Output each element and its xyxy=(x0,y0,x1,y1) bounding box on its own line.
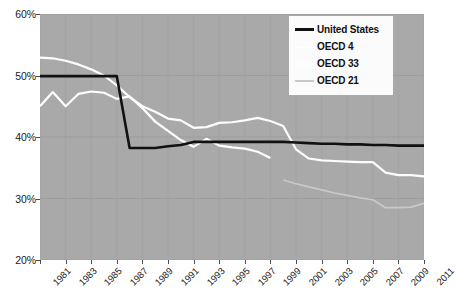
legend-item-oecd-33[interactable]: OECD 33 xyxy=(295,55,387,72)
legend-item-united-states[interactable]: United States xyxy=(295,21,387,38)
x-tick-label: 1981 xyxy=(51,266,72,287)
legend-swatch-oecd-33 xyxy=(295,63,314,65)
x-tick-mark xyxy=(117,260,118,264)
legend-item-oecd-4[interactable]: OECD 4 xyxy=(295,38,387,55)
x-tick-mark xyxy=(219,260,220,264)
x-tick-mark xyxy=(398,260,399,264)
y-tick-label: 50% xyxy=(0,71,36,82)
legend-swatch-oecd-21 xyxy=(295,80,314,82)
x-tick-mark xyxy=(142,260,143,264)
chart-legend: United States OECD 4 OECD 33 OECD 21 xyxy=(289,16,393,95)
x-tick-mark xyxy=(194,260,195,264)
legend-swatch-oecd-4 xyxy=(295,46,314,48)
y-axis: 60%50%40%30%20% xyxy=(0,0,36,296)
x-tick-label: 1991 xyxy=(179,266,200,287)
x-tick-label: 1993 xyxy=(205,266,226,287)
y-tick-label: 40% xyxy=(0,132,36,143)
x-tick-label: 1983 xyxy=(77,266,98,287)
x-tick-label: 2003 xyxy=(333,266,354,287)
legend-item-oecd-21[interactable]: OECD 21 xyxy=(295,72,387,89)
x-tick-mark xyxy=(347,260,348,264)
x-tick-mark xyxy=(66,260,67,264)
x-tick-mark xyxy=(91,260,92,264)
x-tick-mark xyxy=(40,260,41,264)
legend-label-oecd-4: OECD 4 xyxy=(317,42,353,52)
x-tick-label: 1989 xyxy=(153,266,174,287)
x-tick-mark xyxy=(373,260,374,264)
x-tick-mark xyxy=(424,260,425,264)
y-tick-label: 60% xyxy=(0,9,36,20)
x-tick-label: 2005 xyxy=(358,266,379,287)
x-tick-mark xyxy=(168,260,169,264)
x-tick-label: 2009 xyxy=(409,266,430,287)
x-tick-mark xyxy=(270,260,271,264)
legend-label-oecd-21: OECD 21 xyxy=(317,76,359,86)
legend-swatch-united-states xyxy=(295,28,314,31)
legend-label-united-states: United States xyxy=(317,25,379,35)
x-tick-mark xyxy=(322,260,323,264)
x-tick-label: 1987 xyxy=(128,266,149,287)
x-tick-label: 1997 xyxy=(256,266,277,287)
x-tick-mark xyxy=(245,260,246,264)
x-tick-label: 2011 xyxy=(435,266,456,287)
x-tick-label: 1985 xyxy=(102,266,123,287)
legend-label-oecd-33: OECD 33 xyxy=(317,59,359,69)
y-tick-label: 30% xyxy=(0,194,36,205)
x-tick-label: 1995 xyxy=(230,266,251,287)
x-tick-label: 1999 xyxy=(281,266,302,287)
x-tick-label: 2001 xyxy=(307,266,328,287)
x-axis: 1981198319851987198919911993199519971999… xyxy=(0,260,440,296)
x-tick-label: 2007 xyxy=(384,266,405,287)
x-tick-mark xyxy=(296,260,297,264)
